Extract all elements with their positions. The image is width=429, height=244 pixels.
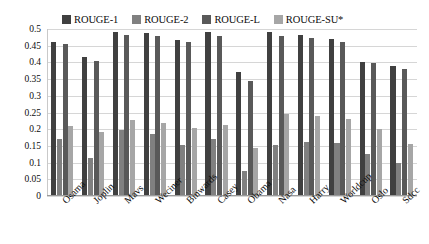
x-axis-tick-cell: Harry xyxy=(294,196,325,244)
legend-label: ROUGE-1 xyxy=(74,14,118,25)
y-axis-tick-label: 0.4 xyxy=(29,57,41,67)
legend-label: ROUGE-L xyxy=(214,14,259,25)
y-axis-tick-label: 0.15 xyxy=(24,141,41,151)
chart-legend: ROUGE-1ROUGE-2ROUGE-LROUGE-SU* xyxy=(62,12,402,26)
bar-group xyxy=(139,29,170,196)
y-axis-tick-label: 0.25 xyxy=(24,108,41,118)
bar xyxy=(402,69,407,196)
bar xyxy=(334,143,339,196)
bar xyxy=(279,36,284,196)
bar xyxy=(82,57,87,196)
bar-group xyxy=(324,29,355,196)
plot-area xyxy=(47,29,417,196)
bar xyxy=(217,36,222,196)
bar xyxy=(180,145,185,196)
x-axis-tick-cell: Nasa xyxy=(263,196,294,244)
rouge-scores-bar-chart: ROUGE-1ROUGE-2ROUGE-LROUGE-SU* 0.50.450.… xyxy=(0,0,429,244)
bar-group xyxy=(201,29,232,196)
x-axis-tick-cell: Worldcup xyxy=(324,196,355,244)
bar-group xyxy=(386,29,417,196)
bar xyxy=(390,66,395,196)
y-axis-tick-label: 0.35 xyxy=(24,74,41,84)
y-axis-tick-label: 0.3 xyxy=(29,91,41,101)
bar-group xyxy=(170,29,201,196)
bar xyxy=(155,36,160,196)
y-axis-tick-labels: 0.50.450.40.350.30.250.20.150.10.050 xyxy=(0,29,44,196)
bar xyxy=(51,42,56,196)
legend-item-rouge-su[interactable]: ROUGE-SU* xyxy=(274,14,343,25)
bar xyxy=(119,130,124,196)
bar xyxy=(144,33,149,196)
x-axis-tick-cell: Obama xyxy=(232,196,263,244)
legend-label: ROUGE-SU* xyxy=(286,14,343,25)
legend-swatch-icon xyxy=(202,15,211,24)
bar-group xyxy=(78,29,109,196)
legend-label: ROUGE-2 xyxy=(144,14,188,25)
y-axis-tick-label: 0.5 xyxy=(29,24,41,34)
x-axis-tick-labels: OsamaJoplinMavsWecinerBinwardsCaseyObama… xyxy=(47,196,417,244)
bar xyxy=(88,158,93,196)
y-axis-tick-label: 0.05 xyxy=(24,174,41,184)
y-axis-tick-label: 0.2 xyxy=(29,124,41,134)
y-axis-tick-label: 0 xyxy=(36,191,41,201)
bar xyxy=(94,61,99,196)
bar xyxy=(57,139,62,196)
bar xyxy=(63,44,68,196)
bar xyxy=(236,72,241,196)
bar xyxy=(396,163,401,196)
bar xyxy=(309,38,314,196)
legend-swatch-icon xyxy=(62,15,71,24)
bar xyxy=(150,134,155,196)
bar xyxy=(242,171,247,196)
bar xyxy=(248,81,253,196)
legend-item-rouge-2[interactable]: ROUGE-2 xyxy=(132,14,188,25)
bar xyxy=(304,142,309,196)
bar xyxy=(329,39,334,196)
bar xyxy=(186,42,191,196)
y-axis-tick-label: 0.1 xyxy=(29,158,41,168)
bar xyxy=(124,35,129,196)
legend-item-rouge-l[interactable]: ROUGE-L xyxy=(202,14,259,25)
bar-group xyxy=(263,29,294,196)
x-axis-tick-cell: Binwards xyxy=(170,196,201,244)
bar-group xyxy=(47,29,78,196)
x-axis-tick-cell: Joplin xyxy=(78,196,109,244)
x-axis-tick-cell: Weciner xyxy=(139,196,170,244)
x-axis-tick-cell: Osama xyxy=(47,196,78,244)
legend-swatch-icon xyxy=(274,15,283,24)
bar-group xyxy=(355,29,386,196)
bar xyxy=(267,32,272,196)
x-axis-tick-cell: Mavs xyxy=(109,196,140,244)
x-axis-tick-cell: Sdcc xyxy=(386,196,417,244)
legend-item-rouge-1[interactable]: ROUGE-1 xyxy=(62,14,118,25)
x-axis-tick-cell: Oslo xyxy=(355,196,386,244)
bar xyxy=(175,40,180,196)
legend-swatch-icon xyxy=(132,15,141,24)
bar-group xyxy=(294,29,325,196)
y-axis-tick-label: 0.45 xyxy=(24,41,41,51)
bar xyxy=(113,32,118,196)
x-axis-tick-cell: Casey xyxy=(201,196,232,244)
bar xyxy=(211,139,216,196)
bar-groups xyxy=(47,29,417,196)
bar xyxy=(273,145,278,196)
bar xyxy=(340,42,345,196)
bar-group xyxy=(232,29,263,196)
bar-group xyxy=(109,29,140,196)
bar xyxy=(298,35,303,196)
